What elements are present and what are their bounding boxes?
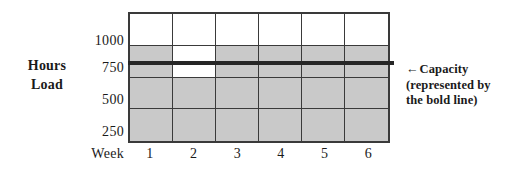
capacity-annotation-line-2: (represented by: [406, 78, 531, 94]
load-cell-week-1-band-1000: [130, 14, 173, 46]
x-axis-title: Week: [62, 146, 124, 162]
y-tick-500: 500: [78, 93, 124, 107]
capacity-annotation-line-3: the bold line): [406, 93, 531, 109]
load-capacity-chart: Hours Load 1000 750 500 250 ←Capacity (r…: [0, 0, 531, 179]
capacity-annotation-line-1: ←Capacity: [406, 62, 531, 78]
y-axis-title-line-1: Hours: [8, 56, 86, 75]
y-axis-title: Hours Load: [8, 56, 86, 94]
y-tick-250: 250: [78, 125, 124, 139]
load-cell-week-6-band-250: [345, 109, 388, 141]
load-cell-week-6-band-1000: [345, 14, 388, 46]
load-cell-week-1-band-250: [130, 109, 173, 141]
load-cell-week-3-band-250: [216, 109, 259, 141]
x-tick-week-4: 4: [259, 146, 303, 164]
load-cell-week-5-band-500: [302, 78, 345, 110]
x-axis-tick-labels: 123456: [128, 146, 390, 164]
plot-area: [128, 12, 390, 143]
load-cell-week-3-band-500: [216, 78, 259, 110]
x-tick-week-3: 3: [215, 146, 259, 164]
load-cell-week-4-band-500: [259, 78, 302, 110]
load-cell-week-3-band-1000: [216, 14, 259, 46]
capacity-label: Capacity: [420, 62, 469, 76]
load-cell-week-1-band-500: [130, 78, 173, 110]
load-cell-week-2-band-500: [173, 78, 216, 110]
load-cell-week-4-band-1000: [259, 14, 302, 46]
load-cell-week-2-band-250: [173, 109, 216, 141]
load-cell-week-5-band-250: [302, 109, 345, 141]
x-tick-week-6: 6: [346, 146, 390, 164]
x-tick-week-5: 5: [303, 146, 347, 164]
load-cell-week-6-band-500: [345, 78, 388, 110]
capacity-bold-line: [128, 61, 394, 65]
y-axis-title-line-2: Load: [8, 75, 86, 94]
x-tick-week-2: 2: [172, 146, 216, 164]
load-cell-week-2-band-1000: [173, 14, 216, 46]
load-grid: [130, 14, 388, 141]
left-arrow-icon: ←: [406, 62, 419, 78]
load-cell-week-4-band-250: [259, 109, 302, 141]
y-tick-750: 750: [78, 61, 124, 75]
load-cell-week-5-band-1000: [302, 14, 345, 46]
capacity-annotation: ←Capacity (represented by the bold line): [406, 62, 531, 109]
y-tick-1000: 1000: [78, 34, 124, 48]
x-tick-week-1: 1: [128, 146, 172, 164]
